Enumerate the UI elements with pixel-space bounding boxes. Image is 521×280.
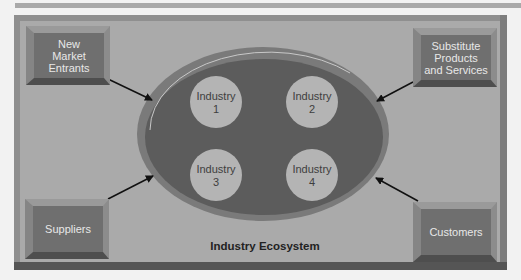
substitute-products-box: Substitute Products and Services	[413, 28, 497, 87]
svg-text:Industry: Industry	[292, 163, 332, 175]
suppliers-label: Suppliers	[45, 223, 91, 235]
industry-circle-1: Industry 1	[190, 76, 242, 128]
svg-text:3: 3	[213, 176, 219, 188]
svg-text:Industry: Industry	[292, 90, 332, 102]
industry-circle-2: Industry 2	[286, 76, 338, 128]
customers-box: Customers	[413, 202, 497, 262]
svg-text:2: 2	[309, 103, 315, 115]
industry-circle-3: Industry 3	[190, 149, 242, 201]
arrow-substitutes	[377, 82, 413, 101]
arrow-new-entrants	[108, 79, 152, 100]
customers-label: Customers	[429, 226, 482, 238]
svg-text:Industry: Industry	[196, 163, 236, 175]
substitute-products-label: Substitute Products and Services	[424, 40, 488, 76]
arrow-customers	[376, 178, 418, 201]
svg-text:1: 1	[213, 103, 219, 115]
new-market-entrants-box: New Market Entrants	[26, 26, 110, 85]
svg-text:Industry: Industry	[196, 90, 236, 102]
industry-circle-4: Industry 4	[286, 149, 338, 201]
svg-text:4: 4	[309, 176, 315, 188]
ecosystem-title: Industry Ecosystem	[190, 240, 340, 252]
industry-ecosystem-ellipse	[137, 47, 389, 221]
new-market-entrants-label: New Market Entrants	[49, 38, 90, 74]
suppliers-box: Suppliers	[25, 199, 109, 259]
arrow-suppliers	[108, 176, 153, 199]
